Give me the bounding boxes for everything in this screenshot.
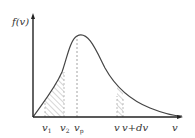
v-label: v bbox=[114, 122, 120, 133]
y-axis-label: f(v) bbox=[11, 16, 29, 27]
v1-label: v1 bbox=[42, 122, 51, 134]
x-axis-label: v bbox=[172, 122, 178, 133]
v-plus-dv-label: v+dv bbox=[122, 122, 148, 133]
distribution-diagram: f(v) v v1 v2 vp v v+dv bbox=[0, 0, 195, 138]
vp-label: vp bbox=[74, 122, 84, 135]
hatched-area-v1-v2 bbox=[45, 20, 64, 117]
v2-label: v2 bbox=[60, 122, 70, 134]
hatched-strip-v-dv bbox=[117, 20, 123, 117]
y-axis-arrow-icon bbox=[31, 13, 35, 19]
